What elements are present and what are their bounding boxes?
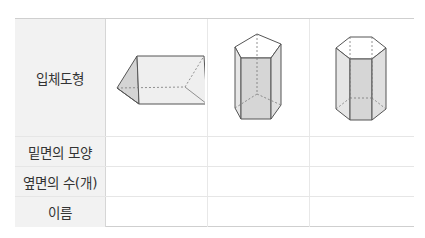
cell-pentagonal-prism	[208, 19, 310, 136]
table-row-base-shape: 밑면의 모양	[15, 136, 414, 167]
pentagonal-prism-icon	[229, 30, 289, 126]
cell-name-1[interactable]	[106, 197, 208, 227]
row-header-name: 이름	[15, 197, 106, 227]
row-header-base-shape: 밑면의 모양	[15, 137, 106, 167]
table-row-side-faces: 옆면의 수(개)	[15, 166, 414, 197]
cell-base-shape-1[interactable]	[106, 137, 208, 167]
table-row-name: 이름	[15, 196, 414, 227]
cell-base-shape-2[interactable]	[208, 137, 310, 167]
row-header-solid: 입체도형	[15, 19, 106, 136]
triangular-prism-icon	[109, 43, 205, 113]
cell-side-faces-3[interactable]	[310, 167, 414, 197]
cell-name-3[interactable]	[310, 197, 414, 227]
cell-triangular-prism	[106, 19, 208, 136]
cell-side-faces-1[interactable]	[106, 167, 208, 197]
cell-base-shape-3[interactable]	[310, 137, 414, 167]
table-row-solid: 입체도형	[15, 19, 414, 136]
cell-hexagonal-prism	[310, 19, 414, 136]
cell-side-faces-2[interactable]	[208, 167, 310, 197]
cell-name-2[interactable]	[208, 197, 310, 227]
row-header-side-faces: 옆면의 수(개)	[15, 167, 106, 197]
hexagonal-prism-icon	[332, 33, 392, 123]
prism-table: 입체도형	[15, 18, 414, 227]
